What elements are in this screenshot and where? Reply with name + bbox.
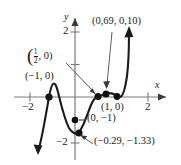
label-y-intercept: (0, −1) [87, 113, 116, 124]
leader-local-max [107, 32, 112, 84]
fraction-denominator: 2 [34, 56, 38, 65]
x-axis-arrow-icon [158, 93, 166, 100]
label-local-min: (−0.29, −1.33) [94, 136, 155, 147]
label-root-1: (1, 0) [101, 102, 124, 113]
right-end-arrow-icon [124, 26, 133, 38]
x-tick-label-2: 2 [145, 101, 151, 112]
label-root-neg1: (−1, 0) [25, 71, 54, 82]
point-root-1 [114, 93, 121, 100]
label-root-half-rest: , 0) [39, 51, 53, 62]
x-axis-label: x [155, 80, 159, 90]
leader-half-root [66, 63, 93, 91]
label-root-half-open-paren: ( [27, 48, 33, 64]
label-root-half-fraction: 1 2 [34, 48, 38, 65]
figure-canvas: y x 2 −2 −2 2 ( 1 2 , 0) (−1, 0) (0,69, … [0, 0, 181, 165]
y-axis-arrow-icon [72, 18, 79, 26]
fraction-numerator: 1 [34, 48, 38, 56]
y-tick-label-neg2: −2 [56, 136, 68, 147]
annotation-leaders [66, 32, 112, 144]
y-axis-label: y [64, 12, 68, 22]
label-local-max: (0,69, 0,10) [92, 16, 141, 27]
x-tick-label-neg2: −2 [22, 101, 34, 112]
point-y-intercept [72, 117, 79, 124]
point-local-max [103, 91, 110, 98]
label-root-half: ( 1 2 , 0) [27, 48, 53, 65]
leader-half-root-arrow-icon [90, 88, 96, 94]
leader-local-max-arrow-icon [103, 81, 110, 89]
point-root-neg1 [45, 93, 52, 100]
y-tick-label-2: 2 [63, 25, 69, 36]
left-end-arrow-icon [34, 145, 43, 156]
